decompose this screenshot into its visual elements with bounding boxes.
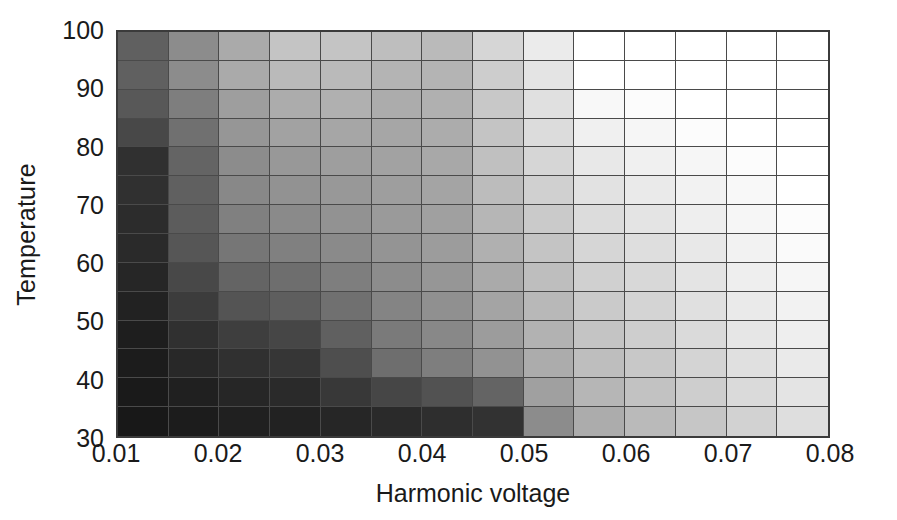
heatmap-cell bbox=[473, 90, 524, 119]
heatmap-cell bbox=[219, 61, 270, 90]
heatmap-cell bbox=[422, 407, 473, 436]
heatmap-cell bbox=[422, 205, 473, 234]
heatmap-cell bbox=[625, 292, 676, 321]
heatmap-cell bbox=[118, 205, 169, 234]
heatmap-cell bbox=[625, 176, 676, 205]
x-tick-label: 0.07 bbox=[704, 441, 753, 466]
heatmap-cell bbox=[524, 90, 575, 119]
heatmap-cell bbox=[169, 263, 220, 292]
heatmap-cell bbox=[118, 234, 169, 263]
heatmap-cell bbox=[625, 321, 676, 350]
heatmap-cell bbox=[219, 147, 270, 176]
heatmap-cell bbox=[219, 234, 270, 263]
heatmap-cell bbox=[625, 90, 676, 119]
heatmap-cell bbox=[574, 321, 625, 350]
heatmap-cell bbox=[270, 234, 321, 263]
heatmap-cell bbox=[473, 321, 524, 350]
heatmap-cell bbox=[676, 349, 727, 378]
heatmap-cell bbox=[422, 61, 473, 90]
heatmap-cell bbox=[625, 263, 676, 292]
y-tick-label: 70 bbox=[76, 192, 104, 217]
heatmap-cell bbox=[727, 32, 778, 61]
heatmap-cell bbox=[169, 90, 220, 119]
heatmap-cell bbox=[372, 119, 423, 148]
heatmap-cell bbox=[321, 205, 372, 234]
heatmap-cell bbox=[676, 234, 727, 263]
heatmap-cell bbox=[270, 119, 321, 148]
heatmap-cell bbox=[169, 378, 220, 407]
heatmap-cell bbox=[169, 147, 220, 176]
heatmap-cell bbox=[422, 176, 473, 205]
heatmap-cell bbox=[777, 90, 828, 119]
heatmap-cell bbox=[118, 119, 169, 148]
x-tick-label: 0.02 bbox=[194, 441, 243, 466]
heatmap-cell bbox=[422, 263, 473, 292]
heatmap-cell bbox=[321, 292, 372, 321]
heatmap-cell bbox=[676, 61, 727, 90]
heatmap-cell bbox=[219, 407, 270, 436]
heatmap-cell bbox=[118, 176, 169, 205]
heatmap-cell bbox=[524, 119, 575, 148]
heatmap-cell bbox=[574, 234, 625, 263]
heatmap-cell bbox=[625, 32, 676, 61]
heatmap-cell bbox=[169, 234, 220, 263]
heatmap-cell bbox=[727, 378, 778, 407]
heatmap-cell bbox=[219, 349, 270, 378]
heatmap-cell bbox=[169, 176, 220, 205]
heatmap-cell bbox=[676, 321, 727, 350]
heatmap-cell bbox=[219, 32, 270, 61]
heatmap-cell bbox=[676, 176, 727, 205]
x-tick-label: 0.05 bbox=[500, 441, 549, 466]
heatmap-cell bbox=[372, 61, 423, 90]
heatmap-cell bbox=[727, 234, 778, 263]
heatmap-cell bbox=[219, 176, 270, 205]
heatmap-cell bbox=[727, 349, 778, 378]
heatmap-figure: Temperature 10090807060504030 0.010.020.… bbox=[0, 0, 897, 520]
heatmap-cell bbox=[777, 205, 828, 234]
heatmap-cell bbox=[727, 292, 778, 321]
heatmap-cell bbox=[727, 263, 778, 292]
heatmap-cell bbox=[524, 32, 575, 61]
heatmap-cell bbox=[270, 407, 321, 436]
heatmap-cell bbox=[574, 90, 625, 119]
heatmap-cell bbox=[777, 176, 828, 205]
heatmap-cell bbox=[219, 378, 270, 407]
y-tick-label: 100 bbox=[62, 18, 104, 43]
heatmap-cell bbox=[372, 32, 423, 61]
heatmap-cell bbox=[574, 176, 625, 205]
heatmap-cell bbox=[676, 90, 727, 119]
heatmap-cell bbox=[777, 407, 828, 436]
heatmap-cell bbox=[473, 147, 524, 176]
heatmap-cell bbox=[118, 263, 169, 292]
heatmap-cell bbox=[321, 32, 372, 61]
heatmap-cell bbox=[270, 378, 321, 407]
heatmap-cell bbox=[676, 119, 727, 148]
heatmap-cell bbox=[676, 263, 727, 292]
heatmap-cell bbox=[422, 119, 473, 148]
heatmap-cell bbox=[422, 349, 473, 378]
heatmap-cell bbox=[727, 321, 778, 350]
heatmap-cell bbox=[321, 61, 372, 90]
heatmap-cell bbox=[321, 90, 372, 119]
heatmap-cell bbox=[777, 321, 828, 350]
heatmap-cell bbox=[169, 349, 220, 378]
heatmap-cell bbox=[372, 234, 423, 263]
heatmap-cell bbox=[574, 349, 625, 378]
heatmap-cell bbox=[727, 205, 778, 234]
heatmap-cell bbox=[625, 349, 676, 378]
heatmap-cell bbox=[473, 119, 524, 148]
heatmap-cell bbox=[777, 378, 828, 407]
heatmap-cell bbox=[777, 234, 828, 263]
x-tick-label: 0.03 bbox=[296, 441, 345, 466]
heatmap-cell bbox=[727, 147, 778, 176]
heatmap-cell bbox=[219, 90, 270, 119]
heatmap-cell bbox=[219, 205, 270, 234]
heatmap-cell bbox=[473, 263, 524, 292]
heatmap-cell bbox=[574, 378, 625, 407]
heatmap-cell bbox=[270, 147, 321, 176]
heatmap-cell bbox=[270, 292, 321, 321]
heatmap-cell bbox=[372, 90, 423, 119]
heatmap-cell bbox=[574, 407, 625, 436]
heatmap-cell bbox=[372, 292, 423, 321]
heatmap-cell bbox=[625, 407, 676, 436]
